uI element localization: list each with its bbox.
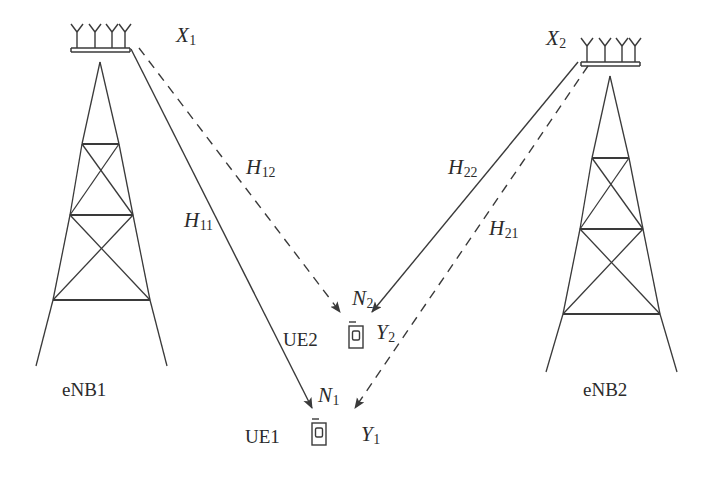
channel-label-h22: H22 bbox=[448, 157, 478, 180]
enb1-tower bbox=[36, 24, 167, 366]
x2-transmit-label: X2 bbox=[546, 28, 566, 51]
enb1-label: eNB1 bbox=[62, 380, 106, 399]
channel-path-h22 bbox=[372, 62, 578, 312]
diagram-canvas bbox=[0, 0, 713, 503]
lattice-tower-icon bbox=[546, 76, 677, 372]
antenna-array-icon bbox=[71, 24, 131, 52]
channel-path-h11 bbox=[131, 49, 312, 408]
ue2-handset bbox=[349, 322, 363, 348]
channel-label-h21: H21 bbox=[489, 218, 519, 241]
mobile-handset-icon bbox=[349, 322, 363, 348]
channel-path-h21 bbox=[355, 66, 588, 408]
ue2-noise-label: N2 bbox=[352, 288, 373, 311]
x1-transmit-label: X1 bbox=[176, 25, 196, 48]
ue1-received-label: Y1 bbox=[361, 424, 380, 447]
enb2-label: eNB2 bbox=[583, 380, 627, 399]
lattice-tower-icon bbox=[36, 62, 167, 366]
ue1-handset bbox=[312, 419, 326, 445]
ue1-noise-label: N1 bbox=[318, 385, 339, 408]
antenna-array-icon bbox=[581, 38, 641, 66]
channel-path-h12 bbox=[139, 48, 340, 312]
network-diagram-figure: X1 X2 H11 H12 H22 H21 N2 UE2 Y2 N1 UE1 Y… bbox=[0, 0, 713, 503]
ue2-received-label: Y2 bbox=[376, 322, 395, 345]
enb2-tower bbox=[546, 38, 677, 372]
mobile-handset-icon bbox=[312, 419, 326, 445]
channel-label-h11: H11 bbox=[184, 210, 213, 233]
ue2-label: UE2 bbox=[283, 330, 318, 349]
channel-label-h12: H12 bbox=[246, 157, 276, 180]
ue1-label: UE1 bbox=[245, 427, 280, 446]
